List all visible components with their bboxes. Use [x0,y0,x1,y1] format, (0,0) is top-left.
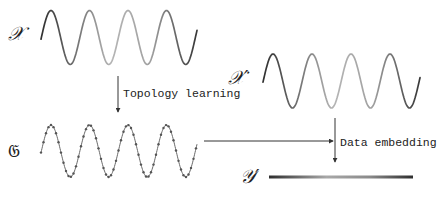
graph-node [140,163,142,165]
graph-node [172,139,174,141]
graph-node [102,167,104,169]
sine-wave-x-prime [263,54,420,108]
graph-node [127,124,129,126]
graph-node [167,125,169,127]
label-graph: 𝔊 [8,141,20,161]
graph-node [137,154,139,156]
label-data-embedding: Data embedding [340,136,437,149]
graph-node [192,158,194,160]
graph-node [182,174,184,176]
graph-node [55,132,57,134]
graph-node [155,154,157,156]
graph-node [190,167,192,169]
label-x-prime: 𝒳′ [228,66,250,88]
graph-node [130,127,132,129]
graph-node [47,126,49,128]
graph-node [160,134,162,136]
graph-node [87,124,89,126]
graph-node [115,160,117,162]
graph-node [165,124,167,126]
graph-node [50,124,52,126]
graph-node [77,156,79,158]
graph-node [177,160,179,162]
graph-node [112,168,114,170]
graph-node [97,147,99,149]
graph-node [62,162,64,164]
graph-node [150,171,152,173]
graph-node [82,135,84,137]
graph-node [142,171,144,173]
graph-node [105,173,107,175]
graph-node [147,175,149,177]
graph-node [52,126,54,128]
graph-node [110,174,112,176]
graph-node [107,176,109,178]
graph-node [70,176,72,178]
graph-node [65,170,67,172]
graph-node [152,163,154,165]
graph-node [72,172,74,174]
graph-node [187,173,189,175]
graph-node [42,141,44,143]
embedding-bar-y-prime [269,176,413,179]
graph-node [185,176,187,178]
graph-node [95,137,97,139]
graph-node [117,149,119,151]
graph-node [195,147,197,149]
label-x: 𝒳 [8,22,30,44]
graph-node [145,175,147,177]
graph-node [92,129,94,131]
graph-node [120,139,122,141]
graph-node [85,128,87,130]
graph-node [75,165,77,167]
graph-node [135,143,137,145]
graph-node [57,141,59,143]
graph-node [122,131,124,133]
graph-node [132,134,134,136]
graph-node [175,149,177,151]
graph-node [170,131,172,133]
graph-nodes [40,124,197,178]
label-y-prime: 𝒴′ [240,165,260,187]
graph-node [162,127,164,129]
graph-node [67,175,69,177]
graph-node [157,143,159,145]
graph-node [80,145,82,147]
graph-node [40,151,42,153]
graph-node [45,132,47,134]
graph-node [90,125,92,127]
graph-node [180,168,182,170]
sine-wave-x [41,11,197,65]
label-topology-learning: Topology learning [123,87,240,100]
diagram-canvas: 𝒳 Topology learning 𝔊 𝒳′ Data embedding … [0,0,441,197]
graph-node [100,158,102,160]
graph-node [125,125,127,127]
graph-node [60,151,62,153]
